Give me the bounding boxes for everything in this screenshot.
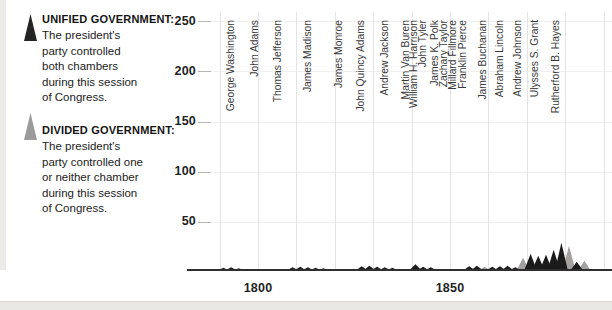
legend-divided-text: The president'sparty controlled oneor ne… bbox=[42, 139, 194, 217]
legend-text-line: The president's bbox=[42, 28, 194, 44]
legend-divided: DIVIDED GOVERNMENT: The president'sparty… bbox=[42, 124, 194, 217]
legend-text-line: The president's bbox=[42, 139, 194, 155]
legend-unified: UNIFIED GOVERNMENT: The president'sparty… bbox=[42, 13, 194, 106]
session-triangle-unified bbox=[555, 243, 568, 271]
legend-text-line: during this session bbox=[42, 186, 194, 202]
legend-text-line: during this session bbox=[42, 75, 194, 91]
x-tick-label: 1850 bbox=[420, 281, 480, 295]
legend-text-line: of Congress. bbox=[42, 90, 194, 106]
page-bottom-strip bbox=[0, 301, 612, 310]
legend-unified-text: The president'sparty controlledboth cham… bbox=[42, 28, 194, 106]
legend-divided-title: DIVIDED GOVERNMENT: bbox=[42, 124, 194, 136]
legend-text-line: party controlled one bbox=[42, 155, 194, 171]
chart-canvas: 50100150200250 George WashingtonJohn Ada… bbox=[0, 0, 612, 310]
x-tick-label: 1800 bbox=[228, 281, 288, 295]
legend-text-line: or neither chamber bbox=[42, 170, 194, 186]
legend-text-line: party controlled bbox=[42, 44, 194, 60]
legend-unified-title: UNIFIED GOVERNMENT: bbox=[42, 13, 194, 25]
legend-text-line: both chambers bbox=[42, 59, 194, 75]
x-axis-line bbox=[187, 269, 612, 271]
legend-text-line: of Congress. bbox=[42, 201, 194, 217]
